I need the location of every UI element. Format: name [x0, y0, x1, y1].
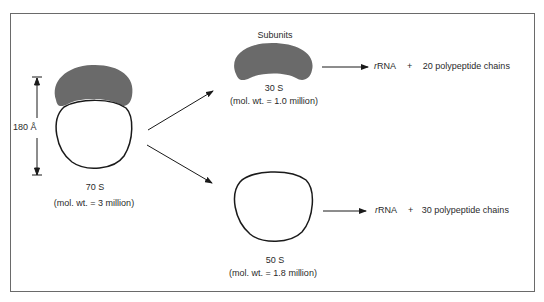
rna-label: RNA — [378, 205, 397, 215]
subunit-30s-molwt: (mol. wt. = 1.0 million) — [230, 96, 318, 106]
arrow-to-50s — [147, 145, 212, 183]
subunits-heading: Subunits — [257, 30, 292, 40]
subunit-30s-label: 30 S — [265, 83, 284, 93]
plus-sign: + — [407, 61, 412, 71]
subunit-30s-products: rRNA + 20 polypeptide chains — [374, 61, 510, 71]
rna-label: RNA — [377, 61, 396, 71]
subunit-30s-shape — [234, 43, 312, 80]
polypeptide-count: 20 polypeptide chains — [423, 61, 510, 71]
subunit-50s-molwt: (mol. wt. = 1.8 million) — [229, 268, 317, 278]
plus-sign: + — [408, 205, 413, 215]
subunit-50s-label: 50 S — [266, 255, 285, 265]
dimension-label: 180 Å — [13, 122, 37, 132]
ribosome-70s-large-subunit — [56, 100, 132, 168]
ribosome-70s-label: 70 S — [86, 182, 105, 192]
subunit-50s-products: rRNA + 30 polypeptide chains — [375, 205, 509, 215]
subunit-50s-shape — [235, 172, 313, 241]
ribosome-70s-molwt: (mol. wt. = 3 million) — [54, 198, 134, 208]
polypeptide-count: 30 polypeptide chains — [422, 205, 509, 215]
arrow-to-30s — [148, 91, 213, 130]
